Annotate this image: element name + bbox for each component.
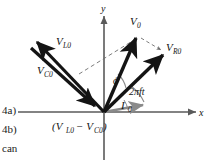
VC0-label-subscript: C0 <box>44 70 53 79</box>
construction-line-left <box>79 40 134 74</box>
phasor-diagram: y x I 0 V R0 V 0 V L0 V C0 <box>0 0 213 163</box>
VL0-label-subscript: L0 <box>62 41 71 50</box>
phi-label: ϕ <box>113 75 118 86</box>
VR0-label-subscript: R0 <box>172 47 182 56</box>
difference-label: (V L0 − V C0 ) <box>52 120 107 135</box>
vector-V0: V 0 <box>104 15 141 112</box>
axis-group: y x <box>18 3 204 160</box>
difference-label-minus: − V <box>76 120 94 132</box>
difference-label-close: ) <box>102 120 107 133</box>
vector-VC0: V C0 <box>31 48 95 106</box>
difference-label-sub2: C0 <box>94 126 103 135</box>
construction-line-right <box>141 38 161 50</box>
V0-arrow <box>104 38 136 112</box>
x-axis-label: x <box>198 107 204 118</box>
V0-label-subscript: 0 <box>137 21 141 30</box>
difference-label-sub1: L0 <box>65 126 74 135</box>
VC0-arrow <box>31 48 95 106</box>
omega-t-label: 2πft <box>129 86 145 97</box>
difference-label-open: (V <box>52 120 64 133</box>
I0-label-subscript: 0 <box>128 105 132 114</box>
y-axis-label: y <box>100 3 106 14</box>
